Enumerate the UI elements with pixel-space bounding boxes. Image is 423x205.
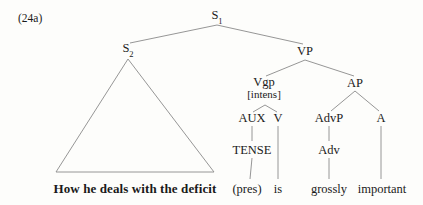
- node-vp: VP: [297, 45, 313, 58]
- node-advp: AdvP: [315, 112, 343, 125]
- node-s2-label: S: [122, 41, 129, 55]
- node-tense: TENSE: [233, 144, 272, 157]
- node-vgp-label: Vgp: [247, 76, 281, 89]
- terminal-adjective: important: [358, 183, 407, 196]
- node-s1-label: S: [211, 8, 218, 22]
- terminal-verb: is: [274, 183, 282, 196]
- syntax-tree-figure: (24a): [0, 0, 423, 205]
- branch-ap-advp: [331, 91, 355, 111]
- branch-ap-a: [355, 91, 379, 111]
- branch-s1-s2: [130, 25, 217, 43]
- node-vgp: Vgp [intens]: [247, 76, 281, 100]
- terminal-tense-value: (pres): [232, 183, 261, 196]
- node-v: V: [273, 112, 282, 125]
- node-s1: S1: [211, 9, 222, 24]
- node-s2-subscript: 2: [129, 49, 133, 59]
- tree-branch-lines: [0, 0, 423, 205]
- branch-tense-pres: [250, 158, 252, 179]
- node-s1-subscript: 1: [218, 16, 222, 26]
- node-vgp-feature: [intens]: [247, 89, 281, 100]
- terminal-embedded-clause: How he deals with the deficit: [54, 182, 217, 195]
- node-adv: Adv: [318, 144, 340, 157]
- node-aux: AUX: [238, 112, 265, 125]
- node-ap: AP: [347, 77, 363, 90]
- terminal-adverb: grossly: [311, 183, 347, 196]
- node-s2: S2: [122, 42, 133, 57]
- branch-vp-ap: [305, 60, 354, 76]
- branch-s1-vp: [217, 25, 303, 44]
- triangle-embedded-clause: [56, 59, 214, 172]
- branch-vp-vgp: [266, 60, 305, 76]
- node-a: A: [376, 112, 385, 125]
